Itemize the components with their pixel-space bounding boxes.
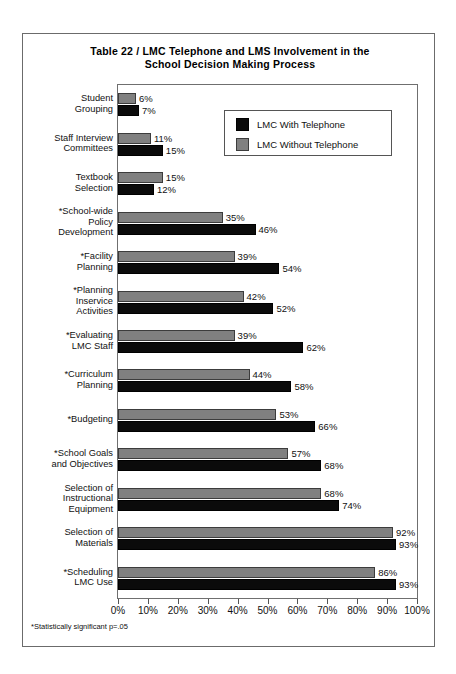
bar-without-telephone (118, 133, 151, 144)
category-label: *SchedulingLMC Use (18, 567, 113, 588)
x-axis-tick (387, 599, 388, 604)
bar-without-telephone (118, 172, 163, 183)
bar-value-with-telephone: 93% (399, 539, 418, 550)
category-label-line: Planning (18, 380, 113, 391)
x-axis-tick-label: 60% (287, 605, 307, 616)
category-label: *PlanningInserviceActivities (18, 285, 113, 317)
bar-without-telephone (118, 448, 288, 459)
x-axis-tick (148, 599, 149, 604)
bar-with-telephone (118, 303, 273, 314)
footnote: *Statistically significant p=.05 (31, 622, 128, 631)
bar-value-with-telephone: 46% (259, 224, 278, 235)
plot-area: 6%7%11%15%15%12%35%46%39%54%42%52%39%62%… (117, 84, 418, 599)
category-label: Selection ofMaterials (18, 527, 113, 548)
bar-without-telephone (118, 488, 321, 499)
bar-value-without-telephone: 86% (378, 567, 397, 578)
category-label-line: Textbook (18, 172, 113, 183)
category-label: *School Goalsand Objectives (18, 448, 113, 469)
bar-without-telephone (118, 212, 223, 223)
bar-with-telephone (118, 184, 154, 195)
bar-without-telephone (118, 409, 276, 420)
bar-with-telephone (118, 421, 315, 432)
bar-value-with-telephone: 62% (306, 342, 325, 353)
bar-value-without-telephone: 53% (279, 409, 298, 420)
x-axis-tick (417, 599, 418, 604)
x-axis-tick-label: 80% (347, 605, 367, 616)
chart-title-line-2: School Decision Making Process (40, 58, 420, 71)
x-axis-tick-label: 20% (168, 605, 188, 616)
bar-without-telephone (118, 527, 393, 538)
category-label-line: Instructional (18, 493, 113, 504)
x-axis-tick (327, 599, 328, 604)
bar-value-with-telephone: 58% (294, 381, 313, 392)
category-label-line: LMC Use (18, 577, 113, 588)
bar-value-without-telephone: 39% (238, 251, 257, 262)
category-label-line: Selection of (18, 483, 113, 494)
category-label-line: *Planning (18, 285, 113, 296)
x-axis-tick (297, 599, 298, 604)
category-label: Selection ofInstructionalEquipment (18, 483, 113, 515)
x-axis-tick (118, 599, 119, 604)
bar-value-without-telephone: 11% (154, 133, 172, 144)
category-label-line: *School-wide (18, 206, 113, 217)
bar-value-without-telephone: 57% (291, 448, 310, 459)
x-axis: 0%10%20%30%40%50%60%70%80%90%100% (117, 599, 418, 623)
category-label-line: *Scheduling (18, 567, 113, 578)
bar-without-telephone (118, 330, 235, 341)
bar-value-with-telephone: 74% (342, 500, 361, 511)
chart-title-line-1: Table 22 / LMC Telephone and LMS Involve… (40, 45, 420, 58)
x-axis-tick-label: 70% (317, 605, 337, 616)
category-label: Staff InterviewCommittees (18, 133, 113, 154)
legend-label-without-telephone: LMC Without Telephone (257, 139, 358, 150)
bar-value-without-telephone: 6% (139, 93, 153, 104)
bar-value-with-telephone: 66% (318, 421, 337, 432)
bar-value-with-telephone: 12% (157, 184, 176, 195)
category-label-line: LMC Staff (18, 341, 113, 352)
category-label-line: Materials (18, 538, 113, 549)
category-label: *Budgeting (18, 414, 113, 425)
x-axis-tick (268, 599, 269, 604)
category-label-line: Grouping (18, 104, 113, 115)
bar-with-telephone (118, 145, 163, 156)
category-label-line: Selection of (18, 527, 113, 538)
bar-value-with-telephone: 7% (142, 105, 156, 116)
legend-item-with-telephone: LMC With Telephone (236, 117, 345, 131)
x-axis-tick (357, 599, 358, 604)
bar-with-telephone (118, 105, 139, 116)
bar-value-without-telephone: 42% (247, 291, 266, 302)
category-label-line: Activities (18, 306, 113, 317)
bar-with-telephone (118, 579, 396, 590)
bar-with-telephone (118, 539, 396, 550)
legend-item-without-telephone: LMC Without Telephone (236, 137, 358, 151)
x-axis-tick (178, 599, 179, 604)
x-axis-tick (208, 599, 209, 604)
bar-without-telephone (118, 369, 250, 380)
category-label-line: and Objectives (18, 459, 113, 470)
bars-layer: 6%7%11%15%15%12%35%46%39%54%42%52%39%62%… (118, 85, 417, 598)
category-label-line: *Budgeting (18, 414, 113, 425)
chart-title: Table 22 / LMC Telephone and LMS Involve… (40, 45, 420, 71)
category-label: *FacilityPlanning (18, 251, 113, 272)
bar-with-telephone (118, 500, 339, 511)
category-label-column: StudentGroupingStaff InterviewCommittees… (18, 84, 113, 599)
bar-value-with-telephone: 52% (276, 303, 295, 314)
bar-value-with-telephone: 93% (399, 579, 418, 590)
category-label: *School-widePolicyDevelopment (18, 206, 113, 238)
bar-without-telephone (118, 567, 375, 578)
bar-value-with-telephone: 54% (282, 263, 301, 274)
bar-value-without-telephone: 68% (324, 488, 343, 499)
bar-with-telephone (118, 263, 279, 274)
bar-with-telephone (118, 381, 291, 392)
legend-swatch-black (236, 118, 249, 131)
category-label: *EvaluatingLMC Staff (18, 330, 113, 351)
x-axis-tick-label: 30% (198, 605, 218, 616)
chart-legend: LMC With Telephone LMC Without Telephone (224, 110, 392, 156)
category-label-line: *School Goals (18, 448, 113, 459)
category-label: TextbookSelection (18, 172, 113, 193)
category-label: *CurriculumPlanning (18, 369, 113, 390)
x-axis-tick (238, 599, 239, 604)
category-label-line: Committees (18, 143, 113, 154)
x-axis-tick-label: 10% (138, 605, 158, 616)
bar-value-without-telephone: 92% (396, 527, 415, 538)
bar-value-with-telephone: 15% (166, 145, 185, 156)
